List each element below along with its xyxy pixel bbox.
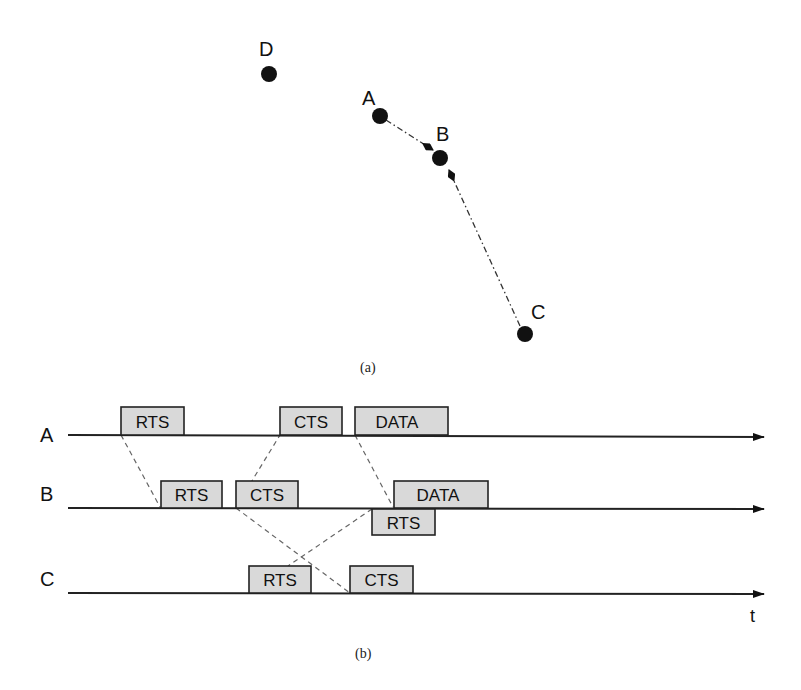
frame-b-rts-below: RTS bbox=[372, 509, 435, 535]
figure-canvas: D A B C (a) A RTS CTS DATA B bbox=[0, 0, 801, 690]
frame-b-data-label: DATA bbox=[417, 486, 460, 505]
node-a bbox=[372, 108, 388, 124]
frame-b-rts: RTS bbox=[161, 481, 222, 508]
frame-a-cts-label: CTS bbox=[294, 413, 328, 432]
frame-a-rts-label: RTS bbox=[136, 413, 170, 432]
frame-c-rts-label: RTS bbox=[263, 571, 297, 590]
frame-b-rts-below-label: RTS bbox=[387, 514, 421, 533]
node-b-label: B bbox=[436, 123, 449, 145]
timing-diagram: A RTS CTS DATA B RTS CTS DATA bbox=[40, 407, 764, 662]
frame-b-rts-label: RTS bbox=[175, 486, 209, 505]
caption-a: (a) bbox=[360, 360, 376, 376]
frame-c-cts: CTS bbox=[350, 566, 413, 593]
caption-b: (b) bbox=[355, 646, 372, 662]
frame-a-data-label: DATA bbox=[376, 413, 419, 432]
prop-b-rts-to-c-rts bbox=[288, 509, 372, 566]
node-c-label: C bbox=[531, 301, 545, 323]
timeline-b-label: B bbox=[40, 483, 53, 505]
timeline-a-label: A bbox=[40, 424, 54, 446]
frame-b-cts: CTS bbox=[236, 481, 298, 508]
timeline-c-label: C bbox=[40, 568, 54, 590]
frame-a-rts: RTS bbox=[121, 407, 184, 435]
frame-c-rts: RTS bbox=[249, 566, 311, 593]
link-c-to-b bbox=[449, 170, 520, 326]
time-axis-label: t bbox=[750, 606, 755, 626]
prop-a-data-to-b-data bbox=[355, 435, 393, 507]
node-b bbox=[432, 150, 448, 166]
node-d-label: D bbox=[259, 38, 273, 60]
frame-a-data: DATA bbox=[355, 407, 448, 435]
topology-diagram: D A B C (a) bbox=[259, 38, 545, 376]
node-c bbox=[517, 326, 533, 342]
node-a-label: A bbox=[362, 87, 376, 109]
prop-a-rts-to-b-rts bbox=[121, 435, 160, 507]
frame-b-data: DATA bbox=[394, 481, 488, 508]
timeline-c-axis bbox=[68, 593, 764, 594]
frame-a-cts: CTS bbox=[280, 407, 342, 435]
node-d bbox=[261, 66, 277, 82]
link-a-to-b bbox=[386, 120, 433, 150]
frame-c-cts-label: CTS bbox=[365, 571, 399, 590]
frame-b-cts-label: CTS bbox=[250, 486, 284, 505]
